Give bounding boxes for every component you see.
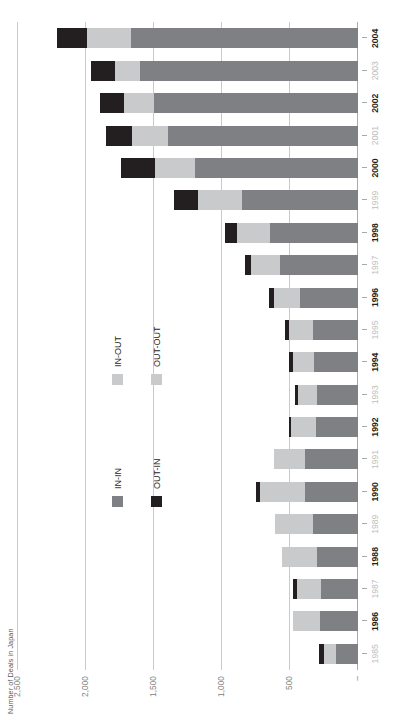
bar-segment-in-in[interactable] [168, 126, 358, 146]
bar-segment-in-out[interactable] [87, 28, 131, 48]
stacked-bar[interactable] [57, 28, 358, 48]
category-label-text: 2004 [370, 29, 380, 48]
category-label-text: 2003 [370, 61, 380, 80]
bar-slot [18, 314, 358, 346]
category-label-text: 1999 [370, 191, 380, 210]
bar-segment-in-in[interactable] [305, 482, 358, 502]
bar-segment-in-out[interactable] [115, 61, 141, 81]
bar-segment-in-out[interactable] [155, 158, 194, 178]
stacked-bar[interactable] [293, 611, 358, 631]
stacked-bar[interactable] [289, 417, 358, 437]
bar-segment-in-out[interactable] [289, 320, 313, 340]
legend-label: OUT-OUT [152, 327, 162, 368]
stacked-bar[interactable] [106, 126, 358, 146]
bar-segment-in-out[interactable] [298, 385, 317, 405]
stacked-bar[interactable] [269, 288, 358, 308]
bar-segment-in-in[interactable] [320, 611, 358, 631]
category-label-1990: 1990 [362, 476, 392, 508]
bar-segment-in-out[interactable] [274, 288, 300, 308]
bar-segment-in-in[interactable] [242, 190, 358, 210]
category-tick [362, 135, 367, 136]
bar-segment-out-in[interactable] [91, 61, 114, 81]
category-tick [362, 102, 367, 103]
bar-segment-out-in[interactable] [100, 93, 124, 113]
bar-segment-in-out[interactable] [251, 255, 281, 275]
bar-segment-in-in[interactable] [270, 223, 358, 243]
bar-segment-in-in[interactable] [300, 288, 358, 308]
bar-segment-in-out[interactable] [275, 514, 313, 534]
bar-segment-in-out[interactable] [260, 482, 305, 502]
bar-segment-in-in[interactable] [336, 644, 358, 664]
category-label-text: 1986 [370, 612, 380, 631]
value-tick-label: 2,000 [80, 676, 90, 697]
bar-segment-in-out[interactable] [297, 579, 321, 599]
stacked-bar[interactable] [174, 190, 358, 210]
category-tick [362, 394, 367, 395]
bar-segment-in-in[interactable] [313, 514, 358, 534]
stacked-bar[interactable] [289, 352, 358, 372]
bar-slot [18, 638, 358, 670]
category-axis-labels: 1985198619871988198919901991199219931994… [362, 22, 392, 670]
bar-segment-in-out[interactable] [198, 190, 243, 210]
legend-item-in-out[interactable]: IN-OUT [112, 277, 123, 385]
category-label-text: 1987 [370, 579, 380, 598]
stacked-bar[interactable] [285, 320, 358, 340]
bar-segment-in-out[interactable] [324, 644, 336, 664]
bar-segment-out-in[interactable] [106, 126, 132, 146]
bar-segment-out-in[interactable] [121, 158, 155, 178]
bar-segment-in-in[interactable] [317, 385, 358, 405]
bar-segment-in-out[interactable] [274, 449, 305, 469]
bar-segment-in-in[interactable] [154, 93, 358, 113]
stacked-bar[interactable] [282, 547, 358, 567]
legend-label: IN-OUT [113, 336, 123, 367]
bar-segment-in-out[interactable] [132, 126, 167, 146]
category-label-text: 1993 [370, 385, 380, 404]
bar-segment-in-out[interactable] [293, 352, 315, 372]
bar-segment-in-in[interactable] [131, 28, 358, 48]
bar-segment-in-in[interactable] [280, 255, 358, 275]
stacked-bar[interactable] [319, 644, 358, 664]
bar-segment-in-out[interactable] [291, 417, 315, 437]
bar-segment-out-in[interactable] [225, 223, 237, 243]
category-label-2000: 2000 [362, 152, 392, 184]
bars-container [18, 22, 358, 670]
stacked-bar[interactable] [121, 158, 358, 178]
stacked-bar[interactable] [275, 514, 358, 534]
stacked-bar[interactable] [91, 61, 358, 81]
category-tick [362, 458, 367, 459]
stacked-bar[interactable] [100, 93, 358, 113]
bar-segment-in-in[interactable] [313, 320, 358, 340]
bar-slot [18, 152, 358, 184]
value-tick-label: 2,500 [12, 676, 22, 697]
bar-segment-in-in[interactable] [316, 417, 358, 437]
bar-segment-in-in[interactable] [195, 158, 358, 178]
legend-item-out-in[interactable]: OUT-IN [151, 399, 162, 507]
bar-segment-in-in[interactable] [314, 352, 358, 372]
bar-segment-out-in[interactable] [174, 190, 197, 210]
category-label-1994: 1994 [362, 346, 392, 378]
bar-segment-out-in[interactable] [57, 28, 87, 48]
legend-item-in-in[interactable]: IN-IN [112, 399, 123, 507]
category-tick [362, 297, 367, 298]
bar-segment-in-out[interactable] [282, 547, 317, 567]
bar-segment-in-in[interactable] [140, 61, 358, 81]
bar-segment-in-in[interactable] [317, 547, 358, 567]
bar-segment-in-in[interactable] [321, 579, 358, 599]
bar-slot [18, 119, 358, 151]
bar-segment-in-in[interactable] [305, 449, 358, 469]
stacked-bar[interactable] [295, 385, 358, 405]
stacked-bar[interactable] [293, 579, 358, 599]
bar-segment-in-out[interactable] [293, 611, 320, 631]
category-tick [362, 167, 367, 168]
category-tick [362, 264, 367, 265]
bar-segment-in-out[interactable] [124, 93, 154, 113]
stacked-bar[interactable] [274, 449, 358, 469]
stacked-bar[interactable] [256, 482, 358, 502]
bar-slot [18, 540, 358, 572]
stacked-bar[interactable] [245, 255, 358, 275]
stacked-bar[interactable] [225, 223, 358, 243]
category-label-text: 1998 [370, 223, 380, 242]
bar-segment-in-out[interactable] [237, 223, 270, 243]
legend-item-out-out[interactable]: OUT-OUT [151, 277, 162, 385]
value-tick-label: 1,000 [216, 676, 226, 697]
